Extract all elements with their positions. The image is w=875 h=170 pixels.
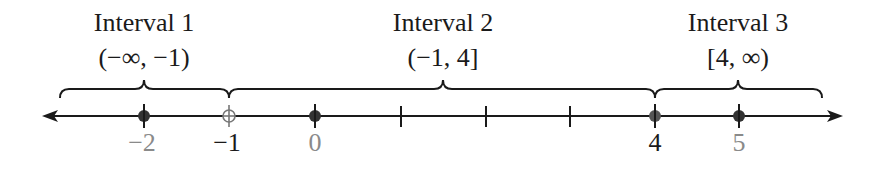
filled-point-neg2 <box>138 104 150 128</box>
filled-point-0 <box>309 104 321 128</box>
brace-interval-2 <box>229 80 655 98</box>
tick-label-neg1: −1 <box>197 128 257 158</box>
interval-2-title: Interval 2 <box>383 8 503 38</box>
tick-label-5: 5 <box>709 128 769 158</box>
filled-point-4 <box>649 104 661 128</box>
interval-3-title: Interval 3 <box>678 8 798 38</box>
tick-label-0: 0 <box>285 128 345 158</box>
interval-3-notation: [4, ∞) <box>678 43 798 73</box>
open-point-neg1 <box>223 105 235 127</box>
tick-label-neg2: −2 <box>112 128 172 158</box>
tick-label-4: 4 <box>625 128 685 158</box>
interval-1-title: Interval 1 <box>84 8 204 38</box>
interval-2-notation: (−1, 4] <box>383 43 503 73</box>
interval-1-notation: (−∞, −1) <box>84 43 204 73</box>
brace-interval-1 <box>60 80 229 98</box>
filled-point-5 <box>733 104 745 128</box>
brace-interval-3 <box>655 80 822 98</box>
